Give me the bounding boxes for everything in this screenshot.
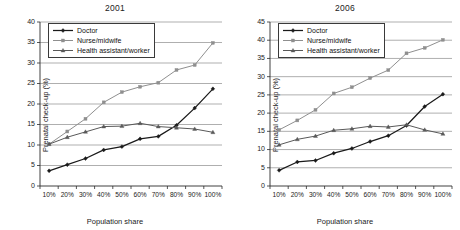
- series-line: [279, 94, 443, 170]
- x-tick-label: 20%: [291, 191, 304, 198]
- legend-label-doctor: Doctor: [307, 26, 328, 35]
- legend-2001: Doctor Nurse/midwife Health assistant/wo…: [48, 23, 155, 58]
- data-point: [387, 69, 390, 72]
- data-point: [314, 159, 318, 163]
- data-point: [84, 157, 88, 161]
- data-point: [350, 86, 353, 89]
- legend-item-nurse: Nurse/midwife: [282, 36, 380, 45]
- legend-symbol-health: [52, 46, 74, 55]
- data-point: [314, 108, 317, 111]
- chart-panel-2001: 2001 Prenatal check-up (%) Population sh…: [0, 0, 230, 230]
- x-tick-label: 40%: [327, 191, 340, 198]
- data-point: [175, 68, 178, 71]
- data-point: [139, 85, 142, 88]
- data-point: [296, 119, 299, 122]
- x-tick-label: 90%: [188, 191, 201, 198]
- data-point: [332, 92, 335, 95]
- data-point: [120, 91, 123, 94]
- data-point: [84, 117, 87, 120]
- y-tick-label: 25: [27, 79, 35, 86]
- data-point: [368, 140, 372, 144]
- legend-item-doctor: Doctor: [282, 26, 380, 35]
- y-tick-label: 45: [257, 18, 265, 25]
- legend-label-nurse: Nurse/midwife: [77, 36, 121, 45]
- prenatal-checkup-figure: 2001 Prenatal check-up (%) Population sh…: [0, 0, 460, 230]
- series-line: [49, 123, 213, 144]
- data-point: [138, 137, 142, 141]
- y-tick-label: 35: [257, 54, 265, 61]
- legend-label-health: Health assistant/worker: [77, 46, 150, 55]
- x-tick-label: 30%: [309, 191, 322, 198]
- y-tick-label: 40: [257, 36, 265, 43]
- series-health: [277, 123, 445, 147]
- y-tick-label: 15: [257, 127, 265, 134]
- x-tick-label: 70%: [382, 191, 395, 198]
- x-tick-label: 90%: [418, 191, 431, 198]
- y-tick-label: 0: [31, 182, 35, 189]
- y-tick-label: 30: [257, 73, 265, 80]
- data-point: [47, 169, 51, 173]
- series-line: [49, 89, 213, 171]
- data-point: [102, 101, 105, 104]
- data-point: [423, 46, 426, 49]
- y-tick-label: 10: [257, 145, 265, 152]
- data-point: [295, 160, 299, 164]
- data-point: [211, 41, 214, 44]
- x-tick-label: 70%: [152, 191, 165, 198]
- x-tick-label: 80%: [170, 191, 183, 198]
- y-tick-label: 30: [27, 59, 35, 66]
- data-point: [405, 52, 408, 55]
- legend-item-nurse: Nurse/midwife: [52, 36, 150, 45]
- data-point: [441, 38, 444, 41]
- legend-symbol-doctor: [282, 26, 304, 35]
- x-tick-label: 40%: [97, 191, 110, 198]
- data-point: [332, 151, 336, 155]
- chart-panel-2006: 2006 Prenatal check-up (%) Population sh…: [230, 0, 460, 230]
- data-point: [65, 163, 69, 167]
- legend-symbol-nurse: [282, 36, 304, 45]
- data-point: [277, 168, 281, 172]
- x-tick-label: 30%: [79, 191, 92, 198]
- series-doctor: [47, 87, 215, 173]
- legend-label-health: Health assistant/worker: [307, 46, 380, 55]
- data-point: [157, 81, 160, 84]
- y-tick-label: 15: [27, 120, 35, 127]
- x-tick-label: 50%: [345, 191, 358, 198]
- y-tick-label: 5: [261, 164, 265, 171]
- y-tick-label: 0: [261, 182, 265, 189]
- x-tick-label: 10%: [42, 191, 55, 198]
- legend-label-nurse: Nurse/midwife: [307, 36, 351, 45]
- legend-symbol-nurse: [52, 36, 74, 45]
- data-point: [193, 64, 196, 67]
- series-line: [279, 125, 443, 145]
- data-point: [369, 77, 372, 80]
- legend-item-health: Health assistant/worker: [52, 46, 150, 55]
- data-point: [138, 121, 142, 125]
- x-tick-label: 100%: [204, 191, 221, 198]
- legend-symbol-health: [282, 46, 304, 55]
- legend-label-doctor: Doctor: [77, 26, 98, 35]
- legend-2006: Doctor Nurse/midwife Health assistant/wo…: [278, 23, 385, 58]
- data-point: [278, 128, 281, 131]
- x-tick-label: 80%: [400, 191, 413, 198]
- legend-item-health: Health assistant/worker: [282, 46, 380, 55]
- legend-symbol-doctor: [52, 26, 74, 35]
- y-tick-label: 40: [27, 18, 35, 25]
- y-tick-label: 35: [27, 38, 35, 45]
- x-tick-label: 10%: [272, 191, 285, 198]
- x-tick-label: 60%: [133, 191, 146, 198]
- legend-item-doctor: Doctor: [52, 26, 150, 35]
- y-tick-label: 5: [31, 161, 35, 168]
- data-point: [66, 130, 69, 133]
- y-tick-label: 20: [27, 100, 35, 107]
- x-tick-label: 20%: [61, 191, 74, 198]
- y-tick-label: 25: [257, 91, 265, 98]
- x-tick-label: 100%: [434, 191, 451, 198]
- y-tick-label: 10: [27, 141, 35, 148]
- x-tick-label: 50%: [115, 191, 128, 198]
- y-tick-label: 20: [257, 109, 265, 116]
- data-point: [102, 148, 106, 152]
- x-tick-label: 60%: [363, 191, 376, 198]
- series-doctor: [277, 92, 445, 172]
